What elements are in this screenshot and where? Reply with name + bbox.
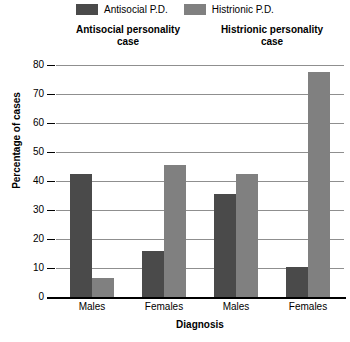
legend-label: Antisocial P.D.: [104, 4, 168, 15]
x-tick-label: Males: [223, 301, 250, 313]
y-tick-label: 80: [4, 60, 44, 70]
x-axis-title: Diagnosis: [56, 319, 344, 330]
y-tick-mark: [47, 268, 55, 269]
bar: [92, 278, 114, 297]
bar-series-container: [56, 65, 344, 297]
y-tick-mark: [47, 210, 55, 211]
plot-area: 01020304050607080: [56, 65, 344, 297]
bar: [308, 72, 330, 297]
y-tick-label: 20: [4, 234, 44, 244]
legend-swatch-icon: [76, 4, 98, 15]
y-tick-mark: [47, 181, 55, 182]
bar: [286, 267, 308, 297]
y-tick-mark: [47, 65, 55, 66]
bar: [142, 251, 164, 297]
y-tick-label: 10: [4, 263, 44, 273]
bar-chart: Antisocial P.D. Histrionic P.D. Antisoci…: [0, 0, 350, 342]
chart-legend: Antisocial P.D. Histrionic P.D.: [0, 4, 350, 15]
bar: [70, 174, 92, 297]
panel-title-line2: case: [200, 36, 344, 48]
y-axis-title: Percentage of cases: [11, 81, 22, 201]
panel-titles: Antisocial personality case Histrionic p…: [56, 24, 344, 48]
bar: [164, 165, 186, 297]
y-tick-mark: [47, 152, 55, 153]
legend-entry-antisocial: Antisocial P.D.: [76, 4, 168, 15]
panel-title-antisocial: Antisocial personality case: [56, 24, 200, 48]
bar: [236, 174, 258, 297]
legend-entry-histrionic: Histrionic P.D.: [184, 4, 274, 15]
y-tick-mark: [47, 123, 55, 124]
panel-title-histrionic: Histrionic personality case: [200, 24, 344, 48]
legend-label: Histrionic P.D.: [212, 4, 274, 15]
y-tick-mark: [47, 239, 55, 240]
y-tick-mark: [47, 94, 55, 95]
x-tick-label: Females: [145, 301, 183, 313]
x-axis-line: [47, 297, 346, 299]
bar: [214, 194, 236, 297]
legend-swatch-icon: [184, 4, 206, 15]
x-tick-label: Males: [79, 301, 106, 313]
panel-title-line2: case: [56, 36, 200, 48]
x-axis-labels: MalesFemalesMalesFemales: [56, 301, 344, 315]
panel-title-line1: Antisocial personality: [56, 24, 200, 36]
y-tick-label: 30: [4, 205, 44, 215]
panel-title-line1: Histrionic personality: [200, 24, 344, 36]
x-tick-label: Females: [289, 301, 327, 313]
y-tick-label: 0: [4, 292, 44, 302]
